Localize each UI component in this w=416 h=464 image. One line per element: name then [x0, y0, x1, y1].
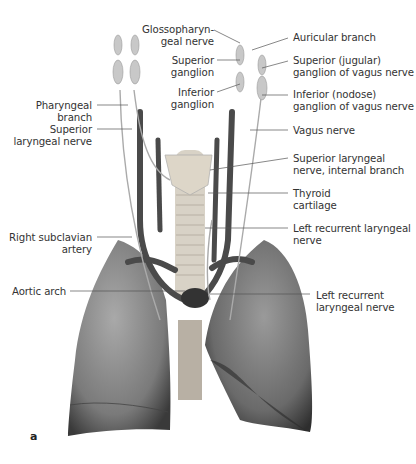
label-superior-laryngeal-internal-branch: Superior laryngealnerve, internal branch — [293, 153, 404, 176]
label-pharyngeal-branch: Pharyngealbranch — [36, 100, 92, 123]
label-left-recurrent-laryngeal-nerve-upper: Left recurrent laryngealnerve — [293, 223, 411, 246]
label-inferior-nodose-ganglion: Inferior (nodose)ganglion of vagus nerve — [293, 89, 414, 112]
label-right-subclavian-artery: Right subclavianartery — [9, 232, 92, 255]
label-superior-laryngeal-nerve: Superiorlaryngeal nerve — [13, 124, 92, 147]
label-left-recurrent-laryngeal-nerve-lower: Left recurrentlaryngeal nerve — [316, 290, 395, 313]
aortic-arch — [181, 288, 209, 308]
label-aortic-arch: Aortic arch — [12, 286, 66, 298]
panel-label: a — [30, 430, 37, 443]
label-inferior-ganglion: Inferiorganglion — [171, 87, 214, 110]
label-auricular-branch: Auricular branch — [293, 32, 376, 44]
label-thyroid-cartilage: Thyroidcartilage — [293, 188, 337, 211]
label-vagus-nerve: Vagus nerve — [293, 125, 355, 137]
label-superior-ganglion: Superiorganglion — [171, 55, 214, 78]
label-glossopharyngeal-nerve: Glossopharyn-geal nerve — [142, 24, 214, 47]
label-superior-jugular-ganglion: Superior (jugular)ganglion of vagus nerv… — [293, 55, 414, 78]
